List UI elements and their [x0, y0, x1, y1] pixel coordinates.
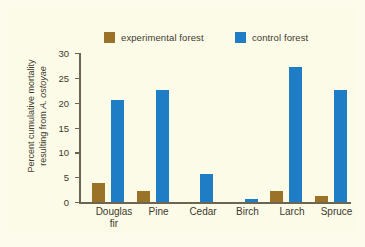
- bar-group: Birch: [218, 53, 263, 202]
- bar-group: Douglas fir: [84, 53, 129, 202]
- y-tick-mark: 15: [75, 128, 79, 129]
- legend-label-experimental-forest: experimental forest: [121, 32, 204, 43]
- y-tick-label: 0: [64, 197, 69, 208]
- bar-experimental-forest: [315, 196, 328, 202]
- y-tick-label: 30: [58, 48, 69, 59]
- legend-label-control-forest: control forest: [252, 32, 308, 43]
- y-axis-title-line1: Percent cumulative mortality: [26, 59, 36, 172]
- y-axis-title-species: A. ostoyae: [38, 66, 48, 109]
- bar-control-forest: [334, 90, 347, 202]
- y-axis-title-line2-prefix: resulting from: [38, 109, 48, 166]
- y-tick-label: 10: [58, 147, 69, 158]
- bar-experimental-forest: [270, 191, 283, 202]
- bar-control-forest: [156, 90, 169, 202]
- y-tick-mark: 10: [75, 152, 79, 153]
- bar-control-forest: [289, 67, 302, 202]
- bar-group: Larch: [262, 53, 307, 202]
- bar-experimental-forest: [92, 183, 105, 202]
- plot-area: 051015202530 Douglas firPineCedarBirchLa…: [79, 53, 351, 202]
- x-axis-category-label: Spruce: [306, 206, 365, 218]
- y-tick-mark: 0: [75, 202, 79, 203]
- figure-container: experimental forest control forest Perce…: [0, 0, 365, 247]
- bar-experimental-forest: [137, 191, 150, 202]
- y-tick-mark: 25: [75, 78, 79, 79]
- bar-group: Pine: [129, 53, 174, 202]
- y-tick-label: 25: [58, 72, 69, 83]
- y-tick-mark: 20: [75, 103, 79, 104]
- legend-swatch-control-forest: [235, 32, 246, 43]
- x-axis-line: [79, 202, 351, 204]
- y-tick-mark: 5: [75, 177, 79, 178]
- bar-group: Spruce: [307, 53, 352, 202]
- y-axis-line: [79, 53, 81, 202]
- legend-item-experimental-forest: experimental forest: [104, 29, 204, 45]
- y-tick-label: 20: [58, 97, 69, 108]
- y-axis-title: Percent cumulative mortality resulting f…: [25, 39, 49, 194]
- bar-control-forest: [111, 100, 124, 202]
- y-tick-mark: 30: [75, 53, 79, 54]
- chart-legend: experimental forest control forest: [104, 29, 362, 45]
- bar-control-forest: [200, 174, 213, 202]
- legend-item-control-forest: control forest: [235, 29, 308, 45]
- legend-swatch-experimental-forest: [104, 32, 115, 43]
- bar-control-forest: [245, 199, 258, 202]
- bar-group: Cedar: [173, 53, 218, 202]
- figure-plate: experimental forest control forest Perce…: [8, 7, 357, 233]
- y-tick-label: 15: [58, 122, 69, 133]
- y-tick-label: 5: [64, 172, 69, 183]
